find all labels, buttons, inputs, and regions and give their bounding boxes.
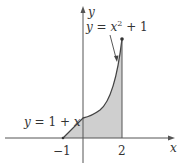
- x-axis-label: x: [170, 141, 177, 155]
- parabola-label: y = x2 + 1: [85, 19, 148, 34]
- leader-arrow-icon: [114, 56, 119, 63]
- point-neg1: [62, 137, 65, 140]
- point-top: [120, 37, 124, 41]
- tick-label-neg1: −1: [53, 144, 71, 158]
- tick-label-2: 2: [118, 144, 126, 158]
- area-chart: y x −1 2 y = 1 + x y = x2 + 1: [0, 0, 179, 166]
- line-label: y = 1 + x: [23, 115, 81, 129]
- y-axis-label: y: [87, 5, 95, 19]
- y-axis-arrow-icon: [81, 6, 86, 13]
- leader-line: [110, 35, 116, 58]
- x-axis-arrow-icon: [168, 136, 175, 141]
